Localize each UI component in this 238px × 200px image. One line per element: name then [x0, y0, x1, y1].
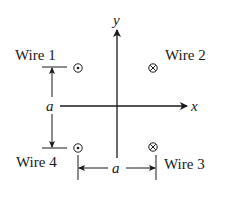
horizontal-dimension-label: a [112, 160, 120, 176]
wire-1-label: Wire 1 [15, 47, 56, 63]
vertical-dimension-label: a [46, 98, 54, 114]
wire-1-dot-icon [74, 64, 82, 72]
wire-4-dot-icon [74, 144, 82, 152]
y-axis-label: y [111, 12, 120, 28]
wire-2-cross-icon [149, 64, 157, 72]
x-axis-label: x [190, 98, 198, 114]
wire-2-label: Wire 2 [165, 47, 206, 63]
wire-4-label: Wire 4 [16, 154, 57, 170]
wire-diagram: y x Wire 1 Wire 2 Wire 3 Wire 4 a [0, 0, 238, 200]
wire-3-cross-icon [149, 143, 157, 151]
wire-3-label: Wire 3 [164, 156, 205, 172]
